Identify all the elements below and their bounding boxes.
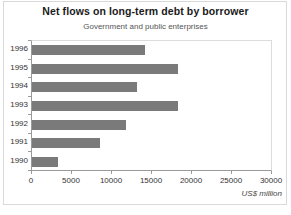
bar-row xyxy=(32,41,271,60)
bar-row xyxy=(32,78,271,97)
y-axis-tick xyxy=(28,114,31,115)
x-axis-tick xyxy=(271,171,272,174)
x-axis-tick-label: 15000 xyxy=(131,176,171,185)
bar xyxy=(32,138,100,148)
y-axis-tick xyxy=(28,151,31,152)
bar xyxy=(32,45,145,55)
y-axis-tick-label: 1993 xyxy=(0,100,28,110)
y-axis-labels: 1990199119921993199419951996 xyxy=(0,40,28,171)
x-axis-tick-label: 30000 xyxy=(251,176,291,185)
bar xyxy=(32,82,137,92)
x-axis-tick xyxy=(71,171,72,174)
plot-area xyxy=(31,40,272,171)
y-axis-tick xyxy=(28,133,31,134)
bar-row xyxy=(32,97,271,116)
y-axis-tick-label: 1996 xyxy=(0,44,28,54)
chart-figure: Net flows on long-term debt by borrower … xyxy=(0,0,291,215)
y-axis-tick xyxy=(28,59,31,60)
x-axis-tick xyxy=(151,171,152,174)
y-axis-tick-label: 1992 xyxy=(0,119,28,129)
bar-row xyxy=(32,60,271,79)
x-axis-tick xyxy=(191,171,192,174)
bar xyxy=(32,120,126,130)
bar xyxy=(32,64,178,74)
x-axis-tick-label: 5000 xyxy=(51,176,91,185)
x-axis-ticks xyxy=(31,171,273,175)
y-axis-tick-label: 1990 xyxy=(0,156,28,166)
x-axis-tick-label: 20000 xyxy=(171,176,211,185)
chart-subtitle: Government and public enterprises xyxy=(0,22,291,31)
y-axis-tick xyxy=(28,96,31,97)
bar-row xyxy=(32,152,271,171)
x-axis-tick xyxy=(231,171,232,174)
y-axis-tick-label: 1994 xyxy=(0,81,28,91)
bar-row xyxy=(32,115,271,134)
y-axis-tick-label: 1991 xyxy=(0,137,28,147)
x-axis-tick xyxy=(31,171,32,174)
bar xyxy=(32,101,178,111)
chart-title: Net flows on long-term debt by borrower xyxy=(0,5,291,17)
x-axis-tick xyxy=(111,171,112,174)
x-axis-labels: 050001000015000200002500030000 xyxy=(0,176,291,188)
y-axis-tick xyxy=(28,40,31,41)
y-axis-tick xyxy=(28,77,31,78)
bar-series xyxy=(32,41,271,170)
x-axis-unit-label: US$ million xyxy=(242,189,282,198)
bar xyxy=(32,157,58,167)
x-axis-tick-label: 25000 xyxy=(211,176,251,185)
y-axis-tick-label: 1995 xyxy=(0,63,28,73)
x-axis-tick-label: 0 xyxy=(11,176,51,185)
x-axis-tick-label: 10000 xyxy=(91,176,131,185)
bar-row xyxy=(32,134,271,153)
